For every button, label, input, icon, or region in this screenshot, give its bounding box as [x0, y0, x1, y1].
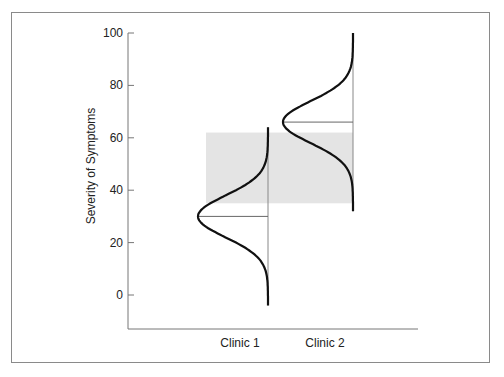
shaded-band [206, 133, 353, 204]
y-tick-label: 0 [116, 288, 123, 302]
category-label: Clinic 2 [305, 336, 345, 350]
y-tick-label: 40 [110, 183, 124, 197]
y-tick-label: 80 [110, 78, 124, 92]
chart: 020406080100Severity of SymptomsClinic 1… [0, 0, 504, 377]
category-label: Clinic 1 [220, 336, 260, 350]
y-axis-label: Severity of Symptoms [84, 108, 98, 225]
y-tick-label: 20 [110, 236, 124, 250]
y-tick-label: 60 [110, 131, 124, 145]
y-tick-label: 100 [103, 26, 123, 40]
